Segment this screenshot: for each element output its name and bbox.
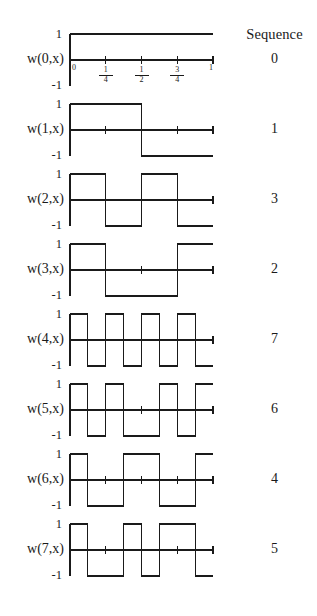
y-axis-label-top: 1 — [42, 98, 62, 111]
waveform-plot: 1-1 — [64, 446, 214, 516]
sequence-value: 7 — [232, 331, 317, 347]
sequence-value: 2 — [232, 261, 317, 277]
walsh-row: w(0,x)01-101412341 — [0, 26, 317, 96]
x-tick-label: 34 — [170, 66, 184, 85]
sequence-value: 5 — [232, 541, 317, 557]
waveform-svg — [64, 516, 214, 586]
sequence-value: 3 — [232, 191, 317, 207]
waveform-plot: 1-1 — [64, 96, 214, 166]
walsh-row: w(5,x)61-1 — [0, 376, 317, 446]
y-axis-label-top: 1 — [42, 378, 62, 391]
y-axis-label-bottom: -1 — [42, 219, 62, 232]
walsh-row: w(2,x)31-1 — [0, 166, 317, 236]
waveform-plot: 1-1 — [64, 516, 214, 586]
x-tick-label: 12 — [135, 66, 149, 85]
y-axis-label-bottom: -1 — [42, 289, 62, 302]
y-axis-label-bottom: -1 — [42, 569, 62, 582]
y-axis-label-top: 1 — [42, 448, 62, 461]
y-axis-label-top: 1 — [42, 238, 62, 251]
function-label: w(2,x) — [0, 191, 64, 207]
walsh-row: w(4,x)71-1 — [0, 306, 317, 376]
waveform-svg — [64, 376, 214, 446]
sequence-value: 6 — [232, 401, 317, 417]
waveform-svg — [64, 26, 214, 96]
function-label: w(5,x) — [0, 401, 64, 417]
waveform-plot: 1-1 — [64, 166, 214, 236]
waveform-plot: 1-1 — [64, 376, 214, 446]
sequence-value: 0 — [232, 51, 317, 67]
y-axis-label-top: 1 — [42, 308, 62, 321]
function-label: w(4,x) — [0, 331, 64, 347]
waveform-svg — [64, 96, 214, 166]
sequence-value: 1 — [232, 121, 317, 137]
waveform-plot: 1-101412341 — [64, 26, 214, 96]
waveform-plot: 1-1 — [64, 306, 214, 376]
function-label: w(0,x) — [0, 51, 64, 67]
y-axis-label-bottom: -1 — [42, 429, 62, 442]
waveform-svg — [64, 306, 214, 376]
y-axis-label-bottom: -1 — [42, 359, 62, 372]
y-axis-label-bottom: -1 — [42, 499, 62, 512]
walsh-function-figure: Sequence w(0,x)01-101412341w(1,x)11-1w(2… — [0, 0, 317, 616]
sequence-value: 4 — [232, 471, 317, 487]
waveform-svg — [64, 236, 214, 306]
waveform-svg — [64, 446, 214, 516]
function-label: w(1,x) — [0, 121, 64, 137]
waveform-plot: 1-1 — [64, 236, 214, 306]
y-axis-label-bottom: -1 — [42, 149, 62, 162]
x-tick-label: 14 — [99, 66, 113, 85]
waveform-svg — [64, 166, 214, 236]
function-label: w(3,x) — [0, 261, 64, 277]
y-axis-label-bottom: -1 — [42, 79, 62, 92]
walsh-row: w(6,x)41-1 — [0, 446, 317, 516]
walsh-row: w(7,x)51-1 — [0, 516, 317, 586]
x-tick-label: 1 — [209, 64, 213, 72]
walsh-row: w(1,x)11-1 — [0, 96, 317, 166]
walsh-row: w(3,x)21-1 — [0, 236, 317, 306]
y-axis-label-top: 1 — [42, 168, 62, 181]
function-label: w(7,x) — [0, 541, 64, 557]
y-axis-label-top: 1 — [42, 28, 62, 41]
x-tick-label: 0 — [72, 64, 76, 72]
function-label: w(6,x) — [0, 471, 64, 487]
y-axis-label-top: 1 — [42, 518, 62, 531]
